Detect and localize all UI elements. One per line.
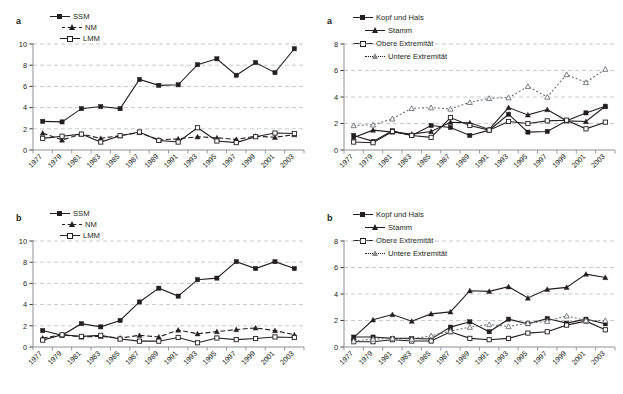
x-tick-label: 2003 — [278, 152, 296, 170]
plot-svg: 0246810197719791981198319851987198919911… — [0, 235, 312, 394]
x-tick-label: 1999 — [239, 152, 257, 170]
data-point-marker — [545, 119, 549, 123]
y-tick-label: 6 — [334, 66, 338, 75]
data-point-marker — [525, 295, 530, 300]
x-tick-label: 1987 — [434, 349, 452, 367]
x-tick-label: 1987 — [123, 349, 141, 367]
data-point-marker — [429, 339, 433, 343]
legend-label: Stamm — [388, 25, 412, 36]
data-point-marker — [390, 312, 395, 317]
data-point-marker — [487, 322, 492, 327]
legend-item[interactable]: NM — [36, 22, 151, 33]
filled-triangle-marker-icon — [365, 223, 385, 232]
data-point-marker — [506, 119, 510, 123]
data-point-marker — [41, 328, 45, 332]
data-point-marker — [137, 339, 141, 343]
x-tick-label: 1991 — [473, 349, 491, 367]
data-point-marker — [292, 335, 296, 339]
chart-panel-a-right: a Kopf und Hals Stamm Obere Extremität — [311, 0, 623, 197]
x-tick-label: 1997 — [531, 152, 549, 170]
y-tick-label: 10 — [19, 237, 27, 246]
x-tick-label: 1979 — [357, 152, 375, 170]
legend-label: Stamm — [388, 222, 412, 233]
data-point-marker — [584, 111, 588, 115]
y-tick-label: 6 — [334, 263, 338, 272]
x-tick-label: 1983 — [84, 349, 102, 367]
data-point-marker — [273, 71, 277, 75]
data-point-marker — [409, 106, 414, 111]
x-tick-label: 1985 — [415, 349, 433, 367]
data-point-marker — [41, 338, 45, 342]
data-point-marker — [352, 140, 356, 144]
legend-label: Kopf und Hals — [376, 12, 424, 23]
data-point-marker — [371, 141, 375, 145]
legend-item[interactable]: SSM — [36, 11, 139, 22]
y-tick-label: 6 — [23, 279, 27, 288]
x-tick-label: 1997 — [220, 152, 238, 170]
data-point-marker — [545, 129, 549, 133]
x-tick-label: 1997 — [531, 349, 549, 367]
data-point-marker — [215, 276, 219, 280]
x-tick-label: 1995 — [201, 152, 219, 170]
data-point-marker — [195, 63, 199, 67]
y-tick-label: 4 — [23, 103, 27, 112]
plot-svg: 0246819771979198119831985198719891991199… — [311, 38, 623, 198]
figure-canvas: a SSM NM LMM 0246810197719 — [0, 0, 623, 394]
legend-item[interactable]: Kopf und Hals — [347, 11, 487, 24]
data-point-marker — [157, 286, 161, 290]
data-point-marker — [273, 260, 277, 264]
legend-label: Kopf und Hals — [376, 209, 424, 220]
data-point-marker — [429, 123, 433, 127]
x-tick-label: 2001 — [570, 152, 588, 170]
data-point-marker — [603, 120, 607, 124]
data-point-marker — [118, 337, 122, 341]
data-point-marker — [390, 116, 395, 121]
data-point-marker — [215, 57, 219, 61]
data-point-marker — [545, 107, 550, 112]
x-tick-label: 1999 — [239, 349, 257, 367]
data-point-marker — [506, 284, 511, 289]
filled-triangle-marker-icon — [62, 23, 82, 32]
data-point-marker — [448, 106, 453, 111]
data-point-marker — [487, 330, 491, 334]
data-point-marker — [506, 336, 510, 340]
data-point-marker — [429, 105, 434, 110]
x-tick-label: 1995 — [512, 152, 530, 170]
data-point-marker — [526, 121, 530, 125]
y-tick-label: 2 — [23, 322, 27, 331]
data-point-marker — [40, 130, 45, 135]
x-tick-label: 1977 — [337, 349, 355, 367]
data-point-marker — [176, 294, 180, 298]
data-point-marker — [99, 333, 103, 337]
x-tick-label: 1987 — [123, 152, 141, 170]
data-point-marker — [584, 127, 588, 131]
data-point-marker — [506, 95, 511, 100]
legend-item[interactable]: Kopf und Hals — [347, 208, 487, 221]
data-point-marker — [565, 118, 569, 122]
x-tick-label: 1981 — [65, 152, 83, 170]
data-point-marker — [41, 119, 45, 123]
data-point-marker — [526, 331, 530, 335]
data-point-marker — [234, 73, 238, 77]
data-point-marker — [429, 135, 433, 139]
data-point-marker — [215, 336, 219, 340]
legend-item[interactable]: Stamm — [347, 24, 499, 37]
legend-item[interactable]: SSM — [36, 208, 139, 219]
x-tick-label: 1989 — [454, 349, 472, 367]
x-tick-label: 1979 — [357, 349, 375, 367]
data-point-marker — [254, 135, 258, 139]
data-point-marker — [603, 328, 607, 332]
panel-letter: a — [16, 16, 21, 26]
data-point-marker — [79, 107, 83, 111]
data-point-marker — [118, 134, 122, 138]
plot-area: 0246819771979198119831985198719891991199… — [311, 235, 623, 394]
legend-item[interactable]: NM — [36, 219, 151, 230]
data-point-marker — [292, 47, 296, 51]
data-point-marker — [410, 133, 414, 137]
data-point-marker — [506, 324, 511, 329]
data-point-marker — [468, 123, 472, 127]
x-tick-label: 1977 — [26, 152, 44, 170]
x-tick-label: 1993 — [492, 152, 510, 170]
legend-item[interactable]: Stamm — [347, 221, 499, 234]
data-point-marker — [468, 320, 472, 324]
